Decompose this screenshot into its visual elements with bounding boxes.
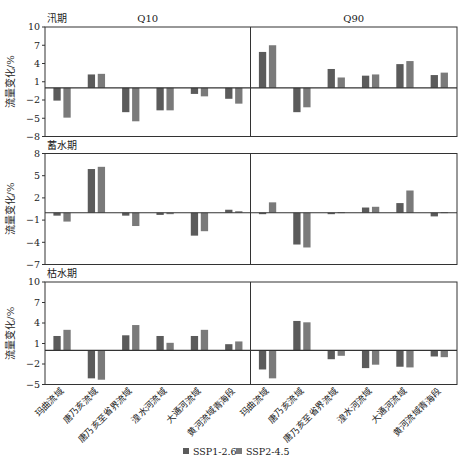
- bar-q10-ssp2: [98, 74, 105, 88]
- bar-q90-ssp2: [406, 61, 413, 88]
- bar-q90-ssp1: [431, 350, 438, 356]
- bar-q90-ssp2: [338, 350, 345, 355]
- bar-q90-ssp1: [259, 52, 266, 88]
- legend-label-ssp2-4.5: SSP2-4.5: [246, 446, 290, 457]
- bar-q90-ssp1: [396, 203, 403, 213]
- y-tick-label: −2: [26, 94, 40, 105]
- legend-swatch-ssp2-4.5: [236, 448, 242, 454]
- bar-q10-ssp1: [191, 213, 198, 236]
- bar-q10-ssp1: [88, 74, 95, 87]
- bar-q90-ssp2: [303, 213, 310, 248]
- column-title-q10: Q10: [137, 13, 158, 24]
- y-axis-label: 流量变化/%: [4, 307, 16, 360]
- bar-q10-ssp2: [98, 167, 105, 213]
- bar-q90-ssp1: [431, 213, 438, 217]
- bar-q90-ssp2: [269, 202, 276, 212]
- chart-panels: 汛期Q10Q90流量变化/%10741−2−5−8蓄水期流量变化/%852−1−…: [4, 13, 457, 390]
- y-tick-label: 2: [34, 192, 40, 203]
- bar-q90-ssp2: [303, 88, 310, 107]
- bar-q10-ssp2: [201, 213, 208, 232]
- bar-q10-ssp1: [156, 336, 163, 350]
- bar-q90-ssp2: [372, 74, 379, 87]
- bar-q10-ssp1: [53, 336, 60, 350]
- y-tick-label: 8: [34, 148, 40, 159]
- bar-q90-ssp1: [431, 75, 438, 88]
- panel-title: 枯水期: [47, 267, 77, 279]
- y-tick-label: 4: [34, 58, 40, 69]
- bar-q10-ssp2: [63, 213, 70, 222]
- bar-q90-ssp1: [328, 350, 335, 359]
- x-axis-category-labels: 玛曲流域唐乃亥流域唐乃亥至省界流域湟水河流域大通河流域黄河流域青海段玛曲流域唐乃…: [32, 386, 442, 445]
- panel-title: 蓄水期: [47, 140, 77, 151]
- bar-q90-ssp2: [441, 73, 448, 88]
- bar-q90-ssp2: [338, 77, 345, 87]
- bar-q90-ssp2: [441, 350, 448, 357]
- bar-q10-ssp2: [63, 330, 70, 351]
- bar-q10-ssp2: [166, 343, 173, 351]
- y-tick-label: −1: [26, 214, 40, 225]
- bar-q10-ssp1: [122, 88, 129, 112]
- bar-q90-ssp2: [269, 350, 276, 378]
- bar-q10-ssp1: [225, 344, 232, 350]
- y-axis-label: 流量变化/%: [4, 183, 16, 236]
- bar-q90-ssp2: [303, 322, 310, 350]
- bar-q90-ssp1: [362, 208, 369, 213]
- y-tick-label: −5: [26, 379, 40, 390]
- panel-title: 汛期: [47, 13, 67, 24]
- bar-q10-ssp2: [166, 88, 173, 111]
- y-tick-label: −5: [26, 113, 40, 124]
- y-tick-label: 1: [34, 338, 40, 349]
- y-tick-label: −7: [26, 259, 40, 270]
- panel-3: 枯水期流量变化/%10741−2−5: [4, 267, 457, 390]
- column-title-q90: Q90: [343, 13, 364, 24]
- bar-q10-ssp1: [156, 88, 163, 111]
- y-tick-label: −4: [26, 237, 40, 248]
- x-category-label: 玛曲流域: [32, 386, 65, 419]
- bar-q90-ssp1: [293, 321, 300, 350]
- bar-q90-ssp2: [372, 207, 379, 213]
- bar-q90-ssp2: [372, 350, 379, 364]
- bar-q10-ssp2: [201, 330, 208, 351]
- bar-q90-ssp2: [406, 350, 413, 367]
- y-tick-label: 7: [34, 40, 40, 51]
- bar-q10-ssp2: [98, 350, 105, 379]
- y-tick-label: 7: [34, 297, 40, 308]
- bar-q10-ssp2: [235, 341, 242, 350]
- panel-2: 蓄水期流量变化/%852−1−4−7: [4, 140, 457, 270]
- y-tick-label: 4: [34, 317, 40, 328]
- bar-q90-ssp1: [293, 88, 300, 112]
- bar-q10-ssp2: [201, 88, 208, 97]
- bar-q10-ssp1: [191, 336, 198, 350]
- bar-q90-ssp1: [293, 213, 300, 245]
- y-tick-label: −2: [26, 358, 40, 369]
- bar-q10-ssp1: [191, 88, 198, 94]
- bar-q10-ssp1: [122, 335, 129, 350]
- bar-q10-ssp2: [235, 88, 242, 104]
- x-category-label: 湟水河流域: [129, 386, 169, 426]
- y-tick-label: 10: [28, 21, 40, 32]
- y-axis-label: 流量变化/%: [4, 55, 16, 108]
- flow-change-chart: 汛期Q10Q90流量变化/%10741−2−5−8蓄水期流量变化/%852−1−…: [0, 0, 468, 468]
- bar-q10-ssp1: [88, 169, 95, 213]
- bar-q90-ssp1: [362, 350, 369, 368]
- y-tick-label: −8: [26, 131, 40, 142]
- x-category-label: 玛曲流域: [238, 386, 271, 419]
- bar-q10-ssp2: [132, 88, 139, 121]
- x-category-label: 湟水河流域: [334, 386, 374, 426]
- bar-q10-ssp2: [132, 213, 139, 226]
- y-tick-label: 10: [28, 276, 40, 287]
- bar-q10-ssp1: [225, 88, 232, 99]
- bar-q90-ssp2: [269, 45, 276, 88]
- y-tick-label: 1: [34, 76, 40, 87]
- y-tick-label: 5: [34, 170, 40, 181]
- legend: SSP1-2.6 SSP2-4.5: [183, 446, 290, 457]
- bar-q90-ssp1: [362, 76, 369, 88]
- bar-q90-ssp2: [406, 191, 413, 213]
- bar-q10-ssp2: [132, 325, 139, 350]
- bar-q90-ssp1: [328, 69, 335, 88]
- panel-1: 汛期Q10Q90流量变化/%10741−2−5−8: [4, 13, 457, 142]
- legend-label-ssp1-2.6: SSP1-2.6: [193, 446, 237, 457]
- bar-q10-ssp1: [53, 88, 60, 101]
- bar-q90-ssp1: [396, 350, 403, 366]
- bar-q10-ssp1: [88, 350, 95, 378]
